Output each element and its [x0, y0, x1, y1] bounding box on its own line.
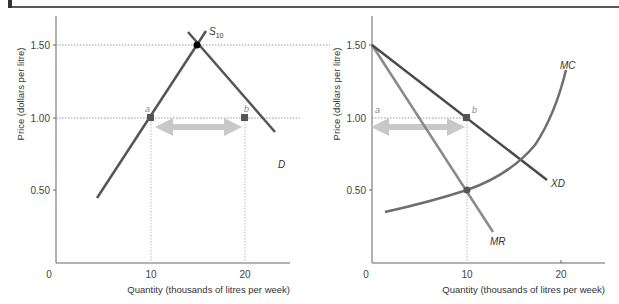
left-ytick-150: 1.50	[31, 40, 51, 51]
right-chart: 1.50 1.00 0.50 0 10 20 Price (dollars pe…	[331, 16, 605, 295]
mr-label: MR	[490, 236, 506, 247]
charts-canvas: 1.50 1.00 0.50 0 10 20 Price (dollars pe…	[0, 0, 619, 304]
mc-label: MC	[560, 60, 576, 71]
mr-curve	[372, 45, 493, 232]
demand-curve-d	[188, 32, 275, 132]
right-xtick-20: 20	[555, 269, 567, 280]
mc-curve	[385, 70, 566, 212]
right-mr-mc-point	[464, 187, 471, 194]
left-xtick-20: 20	[239, 269, 251, 280]
right-xtick-10: 10	[461, 269, 473, 280]
right-x-axis-label: Quantity (thousands of litres per week)	[442, 284, 605, 295]
demand-label: D	[278, 159, 285, 170]
right-y-axis-label: Price (dollars per litre)	[331, 48, 342, 141]
left-x-axis-label: Quantity (thousands of litres per week)	[127, 284, 290, 295]
left-ytick-100: 1.00	[31, 113, 51, 124]
left-y-axis-label: Price (dollars per litre)	[15, 48, 26, 141]
left-xtick-0: 0	[46, 269, 52, 280]
right-xtick-0: 0	[363, 269, 369, 280]
right-ytick-150: 1.50	[347, 40, 367, 51]
left-label-a: a	[145, 104, 150, 114]
left-label-b: b	[244, 104, 249, 114]
supply-label: S10	[209, 26, 224, 39]
left-ytick-050: 0.50	[31, 185, 51, 196]
left-point-b	[241, 114, 248, 121]
right-ytick-100: 1.00	[347, 113, 367, 124]
right-label-b: b	[472, 105, 477, 115]
right-label-a: a	[375, 105, 380, 115]
left-point-a	[147, 114, 154, 121]
left-chart: 1.50 1.00 0.50 0 10 20 Price (dollars pe…	[15, 16, 330, 295]
right-ytick-050: 0.50	[347, 185, 367, 196]
right-point-b	[463, 114, 470, 121]
left-xtick-10: 10	[145, 269, 157, 280]
left-equilibrium-point	[194, 42, 201, 49]
xd-label: XD	[550, 178, 565, 189]
